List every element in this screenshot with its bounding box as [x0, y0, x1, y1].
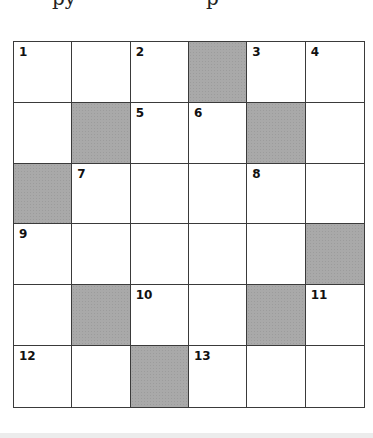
clue-number: 2	[136, 46, 144, 58]
crossword-cell[interactable]	[131, 224, 189, 285]
shaded-cell	[306, 224, 364, 285]
crossword-cell[interactable]	[306, 346, 364, 407]
shaded-cell	[131, 346, 189, 407]
crossword-grid: 12345678910111213	[13, 41, 365, 408]
shaded-cell	[189, 42, 247, 103]
crossword-cell[interactable]: 5	[131, 103, 189, 164]
crossword-cell[interactable]: 7	[72, 164, 130, 225]
clue-number: 3	[252, 46, 260, 58]
crossword-cell[interactable]: 6	[189, 103, 247, 164]
clue-number: 9	[19, 228, 27, 240]
shaded-cell	[247, 285, 305, 346]
shaded-cell	[247, 103, 305, 164]
clue-number: 7	[77, 168, 85, 180]
crossword-cell[interactable]	[14, 103, 72, 164]
crossword-cell[interactable]	[14, 285, 72, 346]
crossword-cell[interactable]	[247, 346, 305, 407]
cropped-heading-right: p	[206, 0, 219, 10]
clue-number: 10	[136, 289, 153, 301]
crossword-cell[interactable]: 10	[131, 285, 189, 346]
crossword-cell[interactable]	[306, 103, 364, 164]
crossword-cell[interactable]	[247, 224, 305, 285]
crossword-cell[interactable]: 1	[14, 42, 72, 103]
crossword-cell[interactable]	[72, 224, 130, 285]
crossword-cell[interactable]: 12	[14, 346, 72, 407]
crossword-cell[interactable]	[131, 164, 189, 225]
cropped-heading-text: py p	[0, 0, 373, 6]
clue-number: 4	[311, 46, 319, 58]
clue-number: 1	[19, 46, 27, 58]
shaded-cell	[72, 103, 130, 164]
clue-number: 6	[194, 107, 202, 119]
crossword-cell[interactable]	[189, 224, 247, 285]
clue-number: 8	[252, 168, 260, 180]
clue-number: 5	[136, 107, 144, 119]
clue-number: 13	[194, 350, 211, 362]
crossword-cell[interactable]: 8	[247, 164, 305, 225]
cropped-heading-left: py	[52, 0, 76, 10]
shaded-cell	[72, 285, 130, 346]
shaded-cell	[14, 164, 72, 225]
crossword-cell[interactable]: 11	[306, 285, 364, 346]
crossword-cell[interactable]	[189, 164, 247, 225]
clue-number: 11	[311, 289, 328, 301]
crossword-cell[interactable]: 2	[131, 42, 189, 103]
clue-number: 12	[19, 350, 36, 362]
crossword-cell[interactable]: 13	[189, 346, 247, 407]
crossword-cell[interactable]	[72, 346, 130, 407]
crossword-cell[interactable]: 9	[14, 224, 72, 285]
crossword-cell[interactable]	[72, 42, 130, 103]
bottom-divider	[0, 433, 373, 438]
crossword-cell[interactable]: 4	[306, 42, 364, 103]
crossword-cell[interactable]: 3	[247, 42, 305, 103]
crossword-cell[interactable]	[306, 164, 364, 225]
crossword-cell[interactable]	[189, 285, 247, 346]
